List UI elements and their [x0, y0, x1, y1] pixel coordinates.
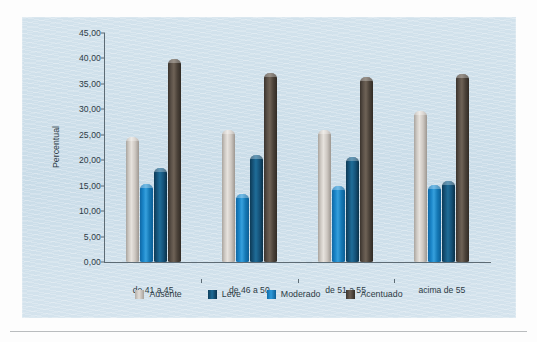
bar-leve — [154, 168, 167, 262]
x-axis-tick-mark — [394, 279, 395, 283]
bar-acentuado — [264, 73, 277, 262]
bar-moderado — [236, 194, 249, 262]
x-axis-tick-mark — [298, 279, 299, 283]
bar-acentuado — [360, 77, 373, 262]
bar-leve — [250, 155, 263, 262]
legend-swatch-ausente-icon — [135, 290, 144, 299]
bar-ausente — [126, 137, 139, 262]
legend-item-moderado[interactable]: Moderado — [267, 289, 321, 299]
bar-ausente — [414, 111, 427, 262]
y-axis-tick-label: 5,00 — [84, 232, 101, 242]
legend-item-leve[interactable]: Leve — [208, 289, 241, 299]
y-axis-tick-label: 30,00 — [79, 104, 101, 114]
page-divider — [10, 331, 527, 332]
bar-group: de 51 a 55 — [298, 33, 394, 262]
bar-leve — [346, 157, 359, 262]
bar-moderado — [140, 184, 153, 262]
y-axis-tick-label: 35,00 — [79, 79, 101, 89]
y-axis-tick-label: 40,00 — [79, 53, 101, 63]
legend-label: Acentuado — [360, 289, 402, 299]
legend-label: Moderado — [281, 289, 321, 299]
chart-panel: Percentual 0,005,0010,0015,0020,0025,003… — [22, 17, 516, 318]
legend-swatch-acentuado-icon — [346, 290, 355, 299]
y-axis-tick-label: 25,00 — [79, 130, 101, 140]
legend-swatch-moderado-icon — [267, 290, 276, 299]
bar-group: de 46 a 50 — [201, 33, 297, 262]
x-axis-line — [104, 262, 491, 263]
bar-group-bars — [105, 33, 201, 262]
plot-area: 0,005,0010,0015,0020,0025,0030,0035,0040… — [105, 33, 490, 262]
bar-moderado — [332, 186, 345, 262]
bar-ausente — [318, 130, 331, 262]
y-axis-tick-label: 15,00 — [79, 181, 101, 191]
chart-legend: AusenteLeveModeradoAcentuado — [22, 289, 516, 299]
page-background: Percentual 0,005,0010,0015,0020,0025,003… — [0, 0, 537, 342]
legend-item-acentuado[interactable]: Acentuado — [346, 289, 402, 299]
y-axis-tick-label: 45,00 — [79, 28, 101, 38]
y-axis-tick-label: 20,00 — [79, 155, 101, 165]
y-axis-title: Percentual — [51, 126, 61, 168]
bar-acentuado — [456, 74, 469, 262]
bar-group-bars — [201, 33, 297, 262]
y-axis-tick-label: 0,00 — [84, 257, 101, 267]
bar-ausente — [222, 130, 235, 262]
legend-label: Ausente — [149, 289, 181, 299]
bar-moderado — [428, 185, 441, 262]
legend-label: Leve — [222, 289, 241, 299]
bar-group: de 41 a 45 — [105, 33, 201, 262]
bar-leve — [442, 181, 455, 262]
bar-group-bars — [298, 33, 394, 262]
bar-group: acima de 55 — [394, 33, 490, 262]
y-axis-tick-label: 10,00 — [79, 206, 101, 216]
x-axis-tick-mark — [201, 279, 202, 283]
bar-acentuado — [168, 59, 181, 262]
bar-group-bars — [394, 33, 490, 262]
legend-swatch-leve-icon — [208, 290, 217, 299]
legend-item-ausente[interactable]: Ausente — [135, 289, 181, 299]
